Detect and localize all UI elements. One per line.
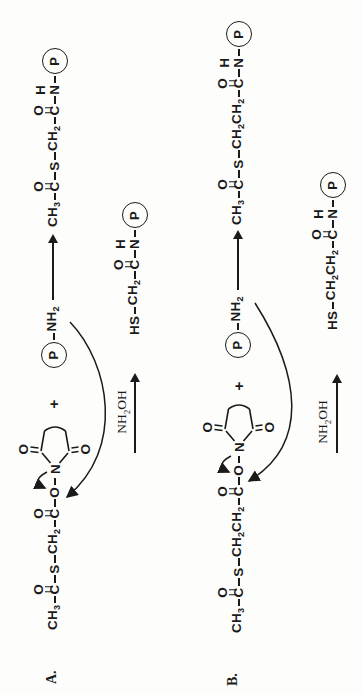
ring-bonds (41, 428, 69, 464)
atom-label: CO (47, 105, 63, 115)
bond-line (238, 599, 240, 607)
bond-line (238, 49, 240, 57)
atom-text: CH (45, 534, 60, 554)
carbonyl-double-bond (45, 586, 53, 593)
carbonyl-oxygen-label: O (33, 105, 44, 116)
carbonyl-double-bond (229, 80, 237, 87)
bond-line (54, 478, 56, 486)
carbonyl-double-bond (45, 183, 53, 190)
atom-label: O (231, 465, 247, 476)
scheme-a-plus-sign: + (45, 400, 62, 409)
atom-text: S (231, 568, 246, 577)
atom-text: CH (323, 255, 338, 275)
atom-label: NH2 (228, 296, 248, 321)
atom-text: CH (323, 280, 338, 300)
atom-subscript: 2 (132, 280, 142, 285)
electron-shift-arrow-b (222, 456, 231, 472)
atom-text: NH (44, 311, 59, 331)
atom-label: CH2 (45, 529, 65, 554)
scheme-a-acylated-protein-formula: CH3COSCH2CONHP (47, 48, 63, 227)
bond-line (238, 170, 240, 178)
atom-text: CH (45, 131, 60, 151)
carbonyl-double-bond (125, 261, 133, 268)
atom-label: CO (231, 587, 247, 597)
bond-line (134, 271, 136, 279)
atom-subscript: 3 (236, 608, 246, 613)
atom-text: HS (127, 316, 142, 335)
atom-subscript: 2 (236, 532, 246, 537)
atom-label: CO (47, 181, 63, 191)
scheme-a-label: A. (44, 670, 60, 684)
atom-text: N (127, 239, 142, 249)
atom-label: S (47, 162, 63, 171)
atom-label: HS (127, 316, 143, 335)
bond-line (134, 307, 136, 315)
scheme-b-protein-amine-group: PNH2 (230, 296, 246, 358)
atom-label: CH2 (45, 126, 65, 151)
atom-label: CH3 (229, 200, 249, 225)
bond-line (238, 90, 240, 98)
atom-text: HS (325, 311, 340, 330)
atom-label: NH2 (44, 306, 64, 331)
scheme-b-reaction-arrow (237, 238, 239, 290)
scheme-b-nhs-thioester-formula: CH3COSCH2CH2COOONO (231, 394, 247, 633)
bond-line (238, 477, 240, 485)
atom-subscript: 2 (330, 275, 340, 280)
carbonyl-oxygen-label: O (33, 584, 44, 595)
atom-text: S (47, 162, 62, 171)
atom-label: CO (127, 259, 143, 269)
amide-hydrogen-label: H (313, 209, 324, 219)
atom-label: CO (47, 584, 63, 594)
atom-label: NH (47, 85, 63, 95)
carbonyl-double-bond (229, 589, 237, 596)
ring-oxygen-label: O (78, 444, 93, 455)
scheme-b-thiol-product-formula: HSCH2CH2CONHP (325, 172, 341, 330)
bond-line (238, 69, 240, 77)
scheme-a-protein-amine-group: PNH2 (46, 306, 62, 368)
atom-text: S (231, 160, 246, 169)
protein-circle: P (41, 342, 67, 368)
atom-subscript: 3 (52, 605, 62, 610)
atom-label: NH (231, 58, 247, 68)
atom-text: S (47, 565, 62, 574)
atom-label: NH (325, 209, 341, 219)
carbonyl-oxygen-label: O (217, 587, 228, 598)
atom-label: S (231, 160, 247, 169)
bond-line (54, 172, 56, 180)
carbonyl-double-bond (229, 488, 237, 495)
atom-subscript: 2 (52, 529, 62, 534)
carbonyl-double-bond (45, 510, 53, 517)
atom-subscript: 2 (330, 250, 340, 255)
bond-line (238, 578, 240, 586)
carbonyl-oxygen-label: O (113, 259, 124, 270)
atom-text: CH (229, 512, 244, 532)
atom-label: CO (231, 179, 247, 189)
scheme-b-label: B. (225, 673, 241, 686)
atom-subscript: 2 (236, 124, 246, 129)
atom-text: O (47, 487, 62, 498)
carbonyl-oxygen-label: O (217, 78, 228, 89)
bond-line (54, 117, 56, 125)
ring-carbonyl-double-bonds (31, 448, 79, 454)
atom-subscript: 2 (51, 306, 61, 311)
amide-hydrogen-label: H (219, 58, 230, 68)
carbonyl-double-bond (45, 107, 53, 114)
ring-oxygen-label: O (262, 422, 277, 433)
scheme-a-nhs-thioester-formula: CH3COSCH2COOONO (47, 417, 63, 631)
bond-line (238, 151, 240, 159)
atom-label: CH2CH2 (323, 250, 343, 300)
atom-subscript: 2 (236, 99, 246, 104)
bond-line (54, 193, 56, 201)
scheme-b-plus-sign: + (230, 382, 247, 391)
bond-line (238, 191, 240, 199)
atom-text: CH (229, 205, 244, 225)
atom-label: CH2 (125, 280, 145, 305)
atom-label: CO (47, 508, 63, 518)
bond-line (238, 456, 240, 464)
carbonyl-oxygen-label: O (217, 486, 228, 497)
scheme-b-nh2oh-label: NH2OH (315, 400, 336, 444)
ring-carbonyl-double-bonds (215, 425, 263, 431)
atom-label: CO (231, 486, 247, 496)
ring-nitrogen-label: N (48, 464, 63, 474)
bond-line (332, 200, 334, 208)
